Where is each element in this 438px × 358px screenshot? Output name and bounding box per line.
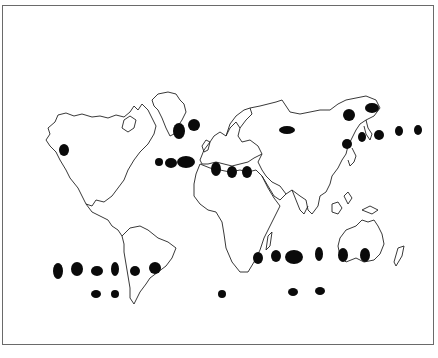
marker-nw-pacific-4 [414,125,422,135]
arabia-outline [262,176,286,200]
marker-southern-ocean-5 [315,287,325,295]
marker-nw-pacific-1 [358,132,366,142]
marker-north-atlantic-3 [177,156,195,168]
new-zealand-outline [394,246,404,266]
central-america-outline [86,204,122,236]
marker-west-australia [338,248,348,262]
madagascar-outline [266,232,272,250]
sea-islands-outline [332,192,378,214]
marker-south-australia [360,248,370,262]
marker-southern-ocean-3 [218,290,226,298]
marker-south-pacific-2 [71,262,83,276]
marker-nw-pacific-2 [374,130,384,140]
marker-south-pacific-4 [111,262,119,276]
marker-siberia [279,126,295,134]
marker-alaska [59,144,69,156]
japan-outline [348,148,356,166]
marker-southern-ocean-4 [288,288,298,296]
world-map [0,0,438,358]
marker-kamchatka-2 [365,103,379,113]
marker-south-pacific-3 [91,266,103,276]
marker-south-pacific-1 [53,263,63,279]
marker-south-africa [253,252,263,264]
africa-outline [194,164,280,272]
south-america-outline [122,226,176,304]
marker-southern-ocean-2 [111,290,119,298]
marker-mediterranean-2 [227,166,237,178]
india-outline [292,190,308,214]
marker-north-atlantic-1 [155,158,163,166]
marker-kamchatka-1 [343,109,355,121]
marker-mediterranean-1 [211,162,221,176]
asia-outline [250,96,380,214]
marker-southern-ocean-1 [91,290,101,298]
marker-argentina-atlantic [149,262,161,274]
marker-greenland-south-2 [188,119,200,131]
marker-south-indian-2 [285,250,303,264]
british-isles-outline [202,140,210,152]
hudson-bay-outline [122,116,136,132]
marker-japan [342,139,352,149]
marker-greenland-south-1 [173,123,185,139]
marker-nw-pacific-3 [395,126,403,136]
marker-south-indian-1 [271,250,281,262]
marker-south-indian-3 [315,247,323,261]
marker-mediterranean-3 [242,166,252,178]
marker-chile [130,266,140,276]
marker-north-atlantic-2 [165,158,177,168]
